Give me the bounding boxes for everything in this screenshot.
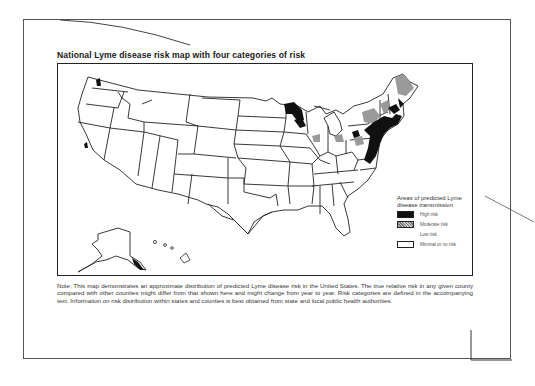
legend-item-minimal-risk: Minimal or no risk bbox=[397, 240, 473, 248]
moderate-risk-swatch bbox=[397, 221, 414, 228]
map-note: Note: This map demonstrates an approxima… bbox=[57, 282, 473, 304]
lyme-risk-map: Areas of predicted Lyme disease transmis… bbox=[57, 63, 473, 276]
legend-label: Minimal or no risk bbox=[420, 242, 456, 247]
legend-item-low-risk: Low risk bbox=[397, 230, 473, 238]
map-legend: Areas of predicted Lyme disease transmis… bbox=[397, 195, 473, 248]
legend-item-high-risk: High risk bbox=[397, 210, 473, 218]
legend-label: Low risk bbox=[420, 232, 437, 237]
legend-label: High risk bbox=[420, 212, 438, 217]
legend-label: Moderate risk bbox=[420, 222, 448, 227]
legend-item-moderate-risk: Moderate risk bbox=[397, 220, 473, 228]
minimal-risk-swatch bbox=[397, 241, 414, 248]
low-risk-swatch bbox=[397, 231, 414, 238]
document-title: National Lyme disease risk map with four… bbox=[57, 50, 305, 60]
high-risk-swatch bbox=[397, 211, 414, 218]
legend-title: Areas of predicted Lyme disease transmis… bbox=[397, 195, 473, 208]
